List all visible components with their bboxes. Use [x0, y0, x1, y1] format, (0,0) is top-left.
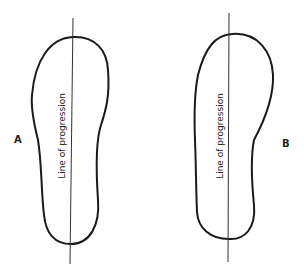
footprint-diagram — [0, 0, 304, 272]
figure-label-a: A — [14, 134, 22, 145]
figure-label-b: B — [282, 138, 290, 149]
line-of-progression-label-b: Line of progression — [215, 93, 225, 179]
footprint-b — [194, 13, 273, 262]
footprint-a — [32, 18, 109, 264]
line-of-progression-a — [70, 18, 73, 264]
line-of-progression-b — [228, 13, 229, 262]
line-of-progression-label-a: Line of progression — [57, 93, 67, 179]
